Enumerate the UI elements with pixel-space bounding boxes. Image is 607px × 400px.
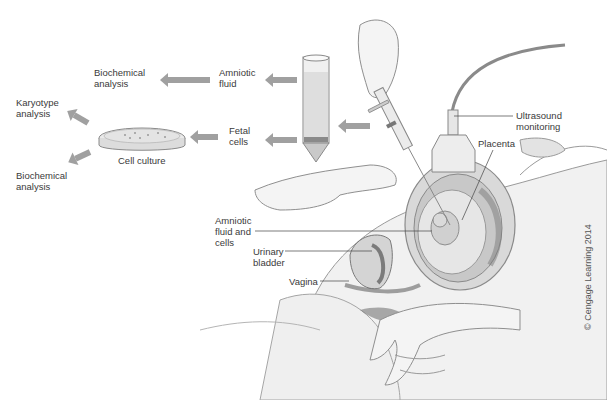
label-cell-culture: Cell culture (118, 155, 166, 166)
arrow-cells-to-culture (190, 130, 218, 144)
label-ultrasound-monitoring: Ultrasound monitoring (516, 110, 562, 132)
arrow-tube-to-fetal-cells (265, 133, 297, 147)
diagram-illustration (0, 0, 607, 400)
label-urinary-bladder: Urinary bladder (253, 246, 285, 268)
label-amniotic-fluid-and-cells: Amniotic fluid and cells (215, 215, 251, 248)
upper-gloved-hand (358, 20, 398, 98)
left-gloved-hand (255, 165, 396, 210)
label-placenta: Placenta (478, 138, 515, 149)
test-tube (303, 55, 329, 162)
label-fetal-cells: Fetal cells (229, 125, 250, 147)
arrow-syringe-to-tube (338, 119, 370, 133)
arrow-culture-to-biochemical (65, 146, 93, 169)
label-biochemical-analysis-bottom: Biochemical analysis (16, 170, 67, 192)
arrow-fluid-to-biochemical (160, 73, 210, 87)
uterus (405, 160, 515, 290)
label-vagina: Vagina (289, 276, 318, 287)
label-biochemical-analysis-top: Biochemical analysis (94, 67, 145, 89)
amniocentesis-diagram: Biochemical analysis Amniotic fluid Kary… (0, 0, 607, 400)
petri-dish (99, 128, 185, 150)
label-karyotype-analysis: Karyotype analysis (16, 97, 59, 119)
arrow-culture-to-karyotype (64, 105, 92, 129)
arrow-tube-to-amniotic-fluid (265, 73, 297, 87)
copyright-credit: © Cengage Learning 2014 (583, 224, 593, 330)
label-amniotic-fluid: Amniotic fluid (219, 67, 255, 89)
